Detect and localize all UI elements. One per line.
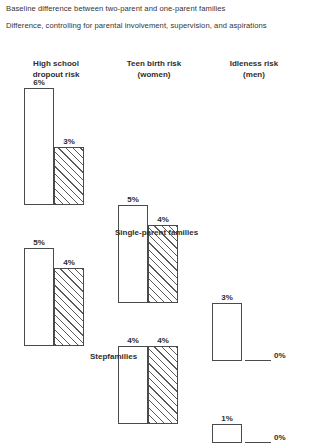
column-header-dropout-subtitle: dropout risk — [8, 69, 104, 80]
bar-value-label: 4% — [63, 258, 75, 267]
bar-value-label: 1% — [221, 414, 233, 423]
bar-item: 4% — [148, 346, 178, 424]
panel-stepfamilies: 5%4%4%4%1%0% — [0, 248, 313, 378]
bar-item: 3% — [54, 147, 84, 206]
column-header-idleness-title: Idleness risk — [230, 59, 278, 68]
group-label-single-parent: Single-parent families — [115, 228, 198, 238]
bar-group-dropout-stepfamilies: 5%4% — [24, 248, 320, 346]
bar-value-label: 5% — [127, 195, 139, 204]
legend-entry-baseline: Baseline difference between two-parent a… — [6, 4, 311, 13]
legend-entry-controlled: Difference, controlling for parental inv… — [6, 21, 311, 30]
column-headers: High school dropout risk Teen birth risk… — [0, 58, 313, 88]
column-header-dropout: High school dropout risk — [8, 58, 104, 80]
bar-value-label: 0% — [274, 433, 286, 442]
bar-dropout-baseline — [24, 88, 54, 205]
bar-item: 6% — [24, 88, 54, 205]
bar-value-label: 5% — [33, 238, 45, 247]
bar-group-idleness-stepfamilies: 1%0% — [212, 424, 320, 443]
bar-teenbirth-controlled — [148, 346, 178, 424]
column-header-teenbirth-subtitle: (women) — [104, 69, 204, 80]
bar-dropout-controlled — [54, 268, 84, 346]
column-header-dropout-title: High school — [33, 59, 79, 68]
chart-legend: Baseline difference between two-parent a… — [6, 4, 311, 38]
bar-item: 4% — [54, 268, 84, 346]
column-header-teenbirth-title: Teen birth risk — [127, 59, 182, 68]
bar-dropout-controlled — [54, 147, 84, 206]
column-header-idleness-subtitle: (men) — [204, 69, 304, 80]
bar-value-label: 4% — [127, 336, 139, 345]
bar-item: 1% — [212, 424, 242, 443]
column-header-teenbirth: Teen birth risk (women) — [104, 58, 204, 80]
bar-group-dropout-single-parent: 6%3% — [24, 88, 320, 205]
bar-value-label: 4% — [157, 215, 169, 224]
bar-idleness-baseline — [212, 424, 242, 443]
bar-group-teenbirth-stepfamilies: 4%4% — [118, 346, 320, 424]
column-header-idleness: Idleness risk (men) — [204, 58, 304, 80]
panel-single-parent-families: 6%3%5%4%3%0% — [0, 88, 313, 240]
group-label-stepfamilies: Stepfamilies — [90, 352, 137, 362]
bar-value-label: 6% — [33, 78, 45, 87]
bar-value-label: 4% — [157, 336, 169, 345]
bar-value-label: 3% — [63, 137, 75, 146]
bar-dropout-baseline — [24, 248, 54, 346]
bar-item: 5% — [24, 248, 54, 346]
